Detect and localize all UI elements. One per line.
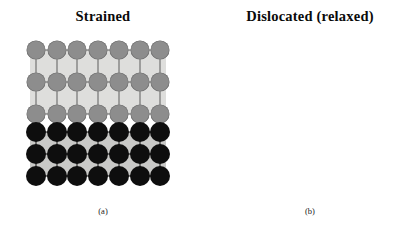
panel-b-caption: (b)	[207, 206, 413, 216]
substrate-atom	[67, 144, 87, 164]
substrate-atom	[130, 122, 150, 142]
substrate-atom	[130, 166, 150, 186]
substrate-atom	[88, 122, 108, 142]
epilayer-atom	[47, 41, 66, 60]
epilayer-atom	[130, 105, 149, 124]
panel-strained: Strained (a)	[0, 0, 206, 239]
epilayer-atom	[68, 105, 87, 124]
epilayer-atom	[130, 41, 149, 60]
substrate-atom	[67, 122, 87, 142]
epilayer-atom	[47, 73, 66, 92]
substrate-atom	[67, 166, 87, 186]
substrate-atom	[130, 144, 150, 164]
panel-a-lattice	[30, 45, 166, 195]
epilayer-atom	[89, 105, 108, 124]
epilayer-atom	[68, 41, 87, 60]
substrate-atom	[88, 144, 108, 164]
substrate-atom	[109, 144, 129, 164]
epilayer-atom	[109, 73, 128, 92]
epilayer-atom	[109, 41, 128, 60]
epilayer-atom	[27, 73, 46, 92]
panel-dislocated: Dislocated (relaxed) (b)	[207, 0, 413, 239]
panel-a-title: Strained	[0, 8, 206, 25]
substrate-atom	[150, 144, 170, 164]
substrate-atom	[150, 166, 170, 186]
substrate-atom	[109, 122, 129, 142]
epilayer-atom	[47, 105, 66, 124]
substrate-atom	[150, 122, 170, 142]
substrate-atom	[109, 166, 129, 186]
epilayer-atom	[151, 105, 170, 124]
epilayer-atom	[89, 41, 108, 60]
substrate-atom	[26, 144, 46, 164]
substrate-atom	[26, 166, 46, 186]
substrate-atom	[88, 166, 108, 186]
substrate-atom	[47, 144, 67, 164]
substrate-atom	[26, 122, 46, 142]
epilayer-atom	[89, 73, 108, 92]
panel-a-caption: (a)	[0, 206, 206, 216]
epilayer-atom	[27, 41, 46, 60]
substrate-atom	[47, 122, 67, 142]
panel-b-title: Dislocated (relaxed)	[207, 8, 413, 25]
substrate-atom	[47, 166, 67, 186]
figure-root: Strained (a) Dislocated (relaxed) (b)	[0, 0, 413, 239]
epilayer-atom	[27, 105, 46, 124]
epilayer-atom	[68, 73, 87, 92]
epilayer-atom	[130, 73, 149, 92]
epilayer-atom	[151, 73, 170, 92]
epilayer-atom	[151, 41, 170, 60]
epilayer-atom	[109, 105, 128, 124]
